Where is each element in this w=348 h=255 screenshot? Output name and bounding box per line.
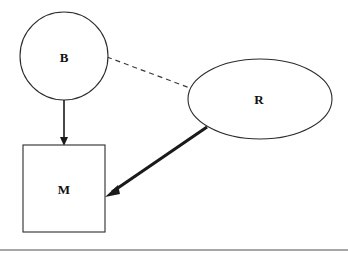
node-m-label: M [58, 182, 70, 197]
node-m[interactable]: M [23, 145, 105, 232]
edge-r-to-m [105, 127, 207, 197]
diagram-canvas: M (solid vertical arrow) --> B M R [0, 0, 348, 255]
node-b[interactable]: B [20, 12, 108, 100]
edge-r-to-m-arrowhead-icon [105, 185, 120, 197]
node-r[interactable]: R [188, 59, 332, 139]
diagram-figure: M (solid vertical arrow) --> B M R [0, 0, 348, 255]
edge-b-to-r-line [107, 57, 190, 88]
edge-r-to-m-line [112, 127, 207, 192]
node-r-label: R [254, 92, 264, 107]
node-b-label: B [60, 50, 69, 65]
edge-b-to-r [107, 57, 190, 88]
edge-b-to-m [60, 100, 68, 146]
